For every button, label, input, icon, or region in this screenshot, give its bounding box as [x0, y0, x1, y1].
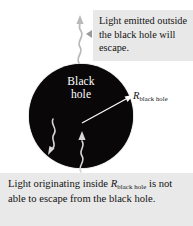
caption-bottom-text: Light originating inside Rblack hole is … — [8, 177, 189, 206]
radius-subscript: black hole — [139, 95, 167, 102]
caption-radius-subscript: black hole — [117, 183, 146, 190]
radius-label: Rblack hole — [133, 90, 168, 102]
black-hole-label: Black hole — [29, 75, 133, 100]
black-hole-label-line2: hole — [29, 88, 133, 101]
black-hole-figure: Black hole Rblack hole Light emitted out… — [0, 0, 193, 226]
caption-bottom-box: Light originating inside Rblack hole is … — [0, 173, 193, 226]
caption-text-before: Light originating inside — [8, 178, 108, 189]
callout-pointer-icon — [86, 30, 92, 38]
black-hole-label-line1: Black — [29, 75, 133, 88]
callout-top-text: Light emitted outside the black hole wil… — [99, 14, 190, 55]
callout-top-box: Light emitted outside the black hole wil… — [93, 10, 193, 61]
